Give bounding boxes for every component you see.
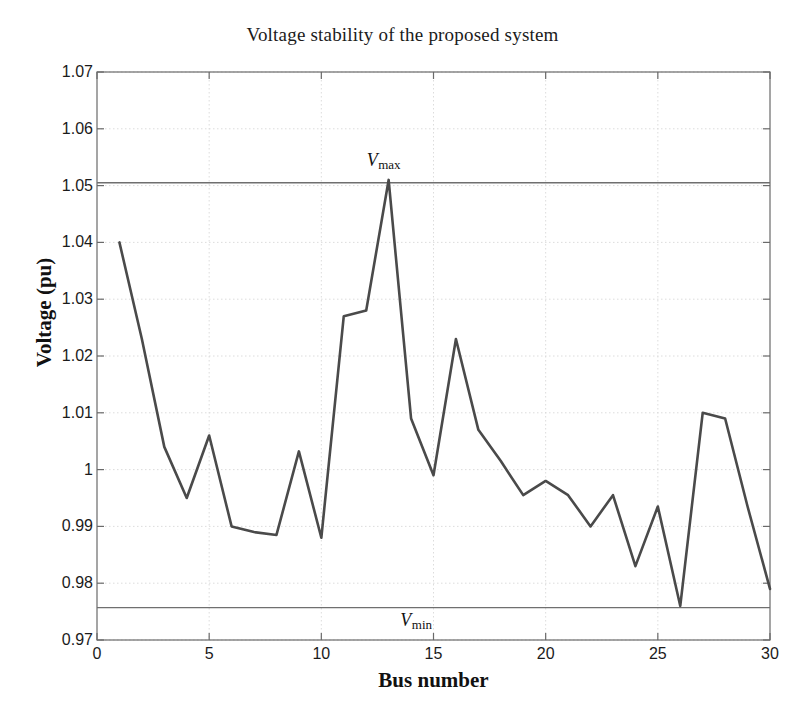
x-axis-label: Bus number [97,668,770,693]
plot-area [0,0,805,708]
voltage-series-line [119,180,770,606]
x-tick-label: 0 [77,645,117,663]
v-min-annotation: Vmin [400,610,432,634]
x-tick-label: 25 [638,645,678,663]
x-tick-label: 5 [189,645,229,663]
x-tick-label: 30 [750,645,790,663]
y-tick-label: 0.98 [41,574,93,592]
y-tick-label: 1.03 [41,290,93,308]
y-tick-label: 1.07 [41,63,93,81]
y-tick-label: 1.02 [41,347,93,365]
chart-title: Voltage stability of the proposed system [0,24,805,46]
x-tick-label: 15 [414,645,454,663]
chart-figure: Voltage stability of the proposed system… [0,0,805,708]
y-tick-label: 1.01 [41,404,93,422]
x-tick-label: 20 [526,645,566,663]
y-tick-label: 0.99 [41,517,93,535]
v-min-subscript: min [411,617,432,632]
y-tick-label: 1 [41,461,93,479]
x-tick-label: 10 [301,645,341,663]
y-tick-label: 1.06 [41,120,93,138]
y-tick-label: 1.05 [41,177,93,195]
v-min-symbol: V [400,610,411,630]
v-max-subscript: max [378,157,401,172]
v-max-symbol: V [367,150,378,170]
v-max-annotation: Vmax [367,150,401,174]
y-axis-tick-labels: 0.970.980.9911.011.021.031.041.051.061.0… [38,0,93,708]
limit-lines [97,183,770,608]
y-tick-label: 1.04 [41,233,93,251]
